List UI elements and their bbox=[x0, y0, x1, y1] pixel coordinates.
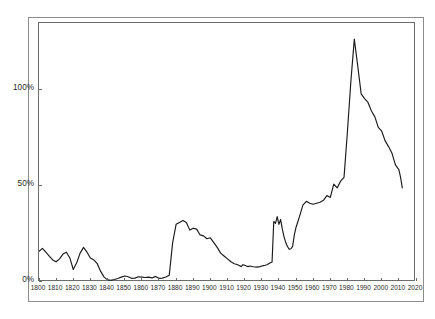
x-axis-tick-1900: 1900 bbox=[202, 284, 217, 291]
x-axis-tickmark-1940 bbox=[278, 278, 279, 281]
x-axis-tickmark-1910 bbox=[227, 278, 228, 281]
x-axis-tick-1980: 1980 bbox=[339, 284, 354, 291]
x-axis-tickmark-1830 bbox=[90, 278, 91, 281]
debt-gdp-line bbox=[39, 39, 402, 280]
y-axis-tickmark-50 bbox=[39, 185, 42, 186]
y-axis-tick-100: 100% bbox=[4, 83, 34, 92]
x-axis-tickmark-1920 bbox=[244, 278, 245, 281]
x-axis-tickmark-1860 bbox=[141, 278, 142, 281]
x-axis-tick-1970: 1970 bbox=[322, 284, 337, 291]
x-axis-tickmark-1970 bbox=[330, 278, 331, 281]
x-axis-tick-1910: 1910 bbox=[219, 284, 234, 291]
x-axis-tickmark-1950 bbox=[296, 278, 297, 281]
chart-line-svg bbox=[39, 23, 416, 282]
x-axis-tickmark-1980 bbox=[347, 278, 348, 281]
x-axis-tick-1890: 1890 bbox=[185, 284, 200, 291]
x-axis-tick-1940: 1940 bbox=[271, 284, 286, 291]
x-axis-tick-1930: 1930 bbox=[253, 284, 268, 291]
x-axis-tick-1840: 1840 bbox=[99, 284, 114, 291]
y-axis-tick-50: 50% bbox=[4, 179, 34, 188]
x-axis-tickmark-1880 bbox=[176, 278, 177, 281]
x-axis-tick-1880: 1880 bbox=[168, 284, 183, 291]
plot-area bbox=[38, 22, 415, 281]
x-axis-tickmark-2020 bbox=[416, 278, 417, 281]
x-axis-tick-1990: 1990 bbox=[356, 284, 371, 291]
x-axis-tick-1850: 1850 bbox=[116, 284, 131, 291]
x-axis-tickmark-2010 bbox=[398, 278, 399, 281]
x-axis-tickmark-1850 bbox=[124, 278, 125, 281]
x-axis-tick-1920: 1920 bbox=[236, 284, 251, 291]
x-axis-tick-1960: 1960 bbox=[305, 284, 320, 291]
x-axis-tick-2000: 2000 bbox=[373, 284, 388, 291]
x-axis-tick-labels: 1800181018201830184018501860187018801890… bbox=[38, 284, 420, 296]
x-axis-tick-1870: 1870 bbox=[151, 284, 166, 291]
x-axis-tickmark-1890 bbox=[193, 278, 194, 281]
x-axis-tick-2020: 2020 bbox=[408, 284, 423, 291]
x-axis-tickmark-1930 bbox=[261, 278, 262, 281]
chart-figure: U.S. Government Debt as a Percentage of … bbox=[0, 0, 435, 319]
x-axis-tickmark-1990 bbox=[364, 278, 365, 281]
x-axis-tickmark-1870 bbox=[158, 278, 159, 281]
x-axis-tick-1950: 1950 bbox=[288, 284, 303, 291]
y-axis-tickmark-0 bbox=[39, 281, 42, 282]
x-axis-tickmark-2000 bbox=[381, 278, 382, 281]
x-axis-tickmark-1820 bbox=[73, 278, 74, 281]
x-axis-tick-1800: 1800 bbox=[31, 284, 46, 291]
y-axis-tickmark-100 bbox=[39, 89, 42, 90]
x-axis-tick-1820: 1820 bbox=[65, 284, 80, 291]
x-axis-tickmark-1810 bbox=[56, 278, 57, 281]
x-axis-tick-1830: 1830 bbox=[82, 284, 97, 291]
x-axis-tick-2010: 2010 bbox=[391, 284, 406, 291]
x-axis-tickmark-1900 bbox=[210, 278, 211, 281]
x-axis-tick-1810: 1810 bbox=[48, 284, 63, 291]
x-axis-tickmark-1960 bbox=[313, 278, 314, 281]
x-axis-tick-1860: 1860 bbox=[133, 284, 148, 291]
y-axis-tick-0: 0% bbox=[4, 275, 34, 284]
x-axis-tickmark-1840 bbox=[107, 278, 108, 281]
